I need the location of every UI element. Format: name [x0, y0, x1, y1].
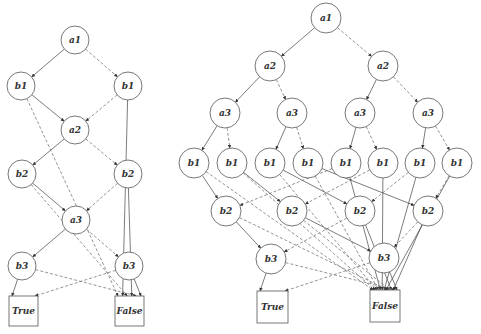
high-edge: [384, 177, 416, 290]
low-edge: [206, 172, 373, 290]
decision-node-b3: b3: [369, 243, 399, 273]
node-label: a3: [286, 108, 298, 118]
high-edge: [33, 183, 66, 211]
high-edge: [386, 176, 450, 290]
low-edge: [436, 176, 449, 198]
decision-node-b2: b2: [413, 196, 443, 226]
node-label: a3: [354, 108, 366, 118]
high-edge: [350, 127, 356, 148]
low-edge: [243, 173, 375, 290]
node-label: b1: [451, 158, 464, 168]
low-edge: [31, 185, 127, 296]
high-edge: [235, 77, 259, 102]
low-edge: [87, 229, 119, 257]
decision-node-b2: b2: [8, 160, 36, 188]
node-label: b3: [378, 253, 391, 263]
terminal-false: False: [370, 290, 400, 322]
decision-node-b1: b1: [442, 148, 472, 178]
high-edge: [281, 28, 314, 56]
decision-node-b2: b2: [345, 196, 375, 226]
decision-node-b2: b2: [114, 160, 142, 188]
node-label: a2: [264, 61, 276, 71]
node-label: a1: [69, 35, 81, 45]
node-label: b1: [15, 81, 28, 91]
decision-node-b2: b2: [211, 196, 241, 226]
node-label: b2: [286, 206, 299, 216]
high-edge: [422, 128, 425, 148]
decision-node-b1: b1: [217, 148, 247, 178]
node-label: a2: [69, 125, 81, 135]
node-label: a3: [70, 215, 82, 225]
decision-node-b1: b1: [114, 72, 142, 100]
high-edge: [33, 139, 64, 165]
node-label: a3: [422, 108, 434, 118]
low-edge: [297, 127, 304, 148]
terminal-true: True: [257, 291, 288, 323]
high-edge: [202, 126, 217, 151]
node-label: b1: [226, 158, 239, 168]
decision-node-a3: a3: [210, 98, 240, 128]
low-edge: [436, 126, 450, 150]
node-label: b2: [16, 169, 29, 179]
node-label: a3: [219, 108, 231, 118]
decision-node-a2: a2: [368, 51, 398, 81]
decision-node-a2: a2: [61, 116, 89, 144]
node-label: b1: [414, 158, 427, 168]
terminal-label: True: [12, 306, 35, 316]
left-obdd-nodes: a1b1b1a2b2b2a3b3b3TrueFalse: [7, 26, 144, 326]
decision-node-a3: a3: [413, 98, 443, 128]
terminal-false: False: [115, 296, 144, 326]
decision-node-b1: b1: [368, 148, 398, 178]
decision-node-b1: b1: [293, 148, 323, 178]
high-edge: [32, 95, 64, 121]
node-label: b1: [302, 158, 315, 168]
decision-node-a3: a3: [62, 206, 90, 234]
decision-node-b1: b1: [405, 148, 435, 178]
terminal-label: False: [371, 301, 398, 311]
low-edge: [366, 127, 376, 150]
decision-node-b3: b3: [256, 244, 286, 274]
high-edge: [134, 279, 141, 296]
high-edge: [350, 178, 381, 291]
low-edge: [276, 80, 285, 100]
decision-node-a3: a3: [345, 98, 375, 128]
decision-node-b3: b3: [115, 252, 143, 280]
low-edge: [35, 270, 116, 296]
low-edge: [87, 183, 118, 210]
terminal-label: True: [261, 302, 284, 312]
low-edge: [86, 139, 117, 165]
node-label: b1: [340, 158, 353, 168]
node-label: b1: [377, 158, 390, 168]
nodes-layer: a1b1b1a2b2b2a3b3b3TrueFalsea1a2a2a3a3a3a…: [7, 3, 472, 326]
terminal-true: True: [9, 296, 38, 326]
high-edge: [33, 229, 66, 257]
high-edge: [260, 273, 266, 291]
decision-node-a1: a1: [61, 26, 89, 54]
node-label: b2: [422, 206, 435, 216]
low-edge: [338, 28, 372, 57]
node-label: b2: [220, 206, 233, 216]
obdd-figure: a1b1b1a2b2b2a3b3b3TrueFalsea1a2a2a3a3a3a…: [0, 0, 481, 334]
high-edge: [367, 80, 377, 100]
decision-node-b2: b2: [277, 196, 307, 226]
low-edge: [227, 128, 230, 148]
low-edge: [86, 95, 117, 121]
node-label: b3: [265, 254, 278, 264]
decision-node-b3: b3: [8, 252, 36, 280]
decision-node-a2: a2: [255, 51, 285, 81]
decision-node-a3: a3: [277, 98, 307, 128]
node-label: a1: [320, 13, 332, 23]
decision-node-a1: a1: [311, 3, 341, 33]
node-label: a2: [377, 61, 389, 71]
low-edge: [393, 77, 417, 102]
node-label: b1: [264, 158, 277, 168]
decision-node-b1: b1: [255, 148, 285, 178]
node-label: b2: [354, 206, 367, 216]
right-obdd-nodes: a1a2a2a3a3a3a3b1b1b1b1b1b1b1b1b2b2b2b2b3…: [179, 3, 472, 323]
high-edge: [236, 222, 260, 248]
node-label: b1: [122, 81, 135, 91]
node-label: b3: [16, 261, 29, 271]
node-label: b3: [123, 261, 136, 271]
high-edge: [32, 49, 65, 77]
high-edge: [12, 279, 18, 296]
